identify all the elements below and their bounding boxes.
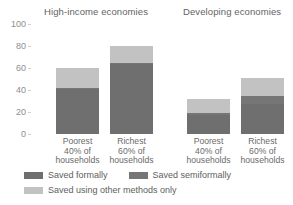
legend-label-saved-other-methods: Saved using other methods only — [48, 186, 177, 195]
y-axis-tick-mark — [28, 46, 31, 47]
bar-segment — [56, 89, 99, 134]
y-axis-tick-label: 20 — [16, 108, 26, 117]
bar-segment — [110, 64, 153, 134]
category-label-line: households — [47, 156, 109, 166]
category-label: Richest60% ofhouseholds — [232, 137, 293, 166]
legend-item-saved-other-methods: Saved using other methods only — [24, 186, 177, 195]
bar-segment — [187, 99, 230, 113]
bar-stack — [187, 99, 230, 134]
y-axis-tick-mark — [28, 68, 31, 69]
chart-legend: Saved formally Saved semiformally Saved … — [24, 169, 292, 199]
group-title-high-income: High-income economies — [44, 6, 148, 17]
y-axis-tick-label: 100 — [11, 20, 26, 29]
legend-swatch-saved-semiformally — [129, 172, 148, 179]
stacked-bar-chart: High-income economies Developing economi… — [0, 0, 292, 205]
bar-stack — [110, 46, 153, 134]
y-axis-tick-mark — [28, 90, 31, 91]
legend-swatch-saved-formally — [24, 172, 43, 179]
plot-area — [40, 24, 292, 134]
legend-row-1: Saved formally Saved semiformally — [24, 169, 292, 182]
y-axis-tick-label: 40 — [16, 86, 26, 95]
y-axis-tick-label: 80 — [16, 42, 26, 51]
legend-label-saved-semiformally: Saved semiformally — [153, 171, 232, 180]
category-label: Poorest40% ofhouseholds — [47, 137, 109, 166]
bar-segment — [241, 78, 284, 96]
legend-label-saved-formally: Saved formally — [48, 171, 108, 180]
legend-item-saved-semiformally: Saved semiformally — [129, 171, 232, 180]
bar-stack — [241, 78, 284, 134]
bar-segment — [241, 104, 284, 134]
category-label: Poorest40% ofhouseholds — [178, 137, 240, 166]
legend-swatch-saved-other-methods — [24, 187, 43, 194]
category-label: Richest60% ofhouseholds — [101, 137, 163, 166]
bar-segment — [187, 115, 230, 134]
category-label-line: households — [178, 156, 240, 166]
legend-row-2: Saved using other methods only — [24, 184, 292, 197]
bar-stack — [56, 68, 99, 134]
y-axis-tick-mark — [28, 24, 31, 25]
y-axis-tick-label: 0 — [21, 130, 26, 139]
group-title-developing: Developing economies — [183, 6, 281, 17]
category-label-line: households — [232, 156, 293, 166]
y-axis-tick-mark — [28, 134, 31, 135]
bar-segment — [56, 68, 99, 88]
legend-item-saved-formally: Saved formally — [24, 171, 108, 180]
bar-segment — [110, 46, 153, 63]
bar-segment — [241, 96, 284, 105]
y-axis-tick-mark — [28, 112, 31, 113]
category-label-line: households — [101, 156, 163, 166]
y-axis-tick-label: 60 — [16, 64, 26, 73]
